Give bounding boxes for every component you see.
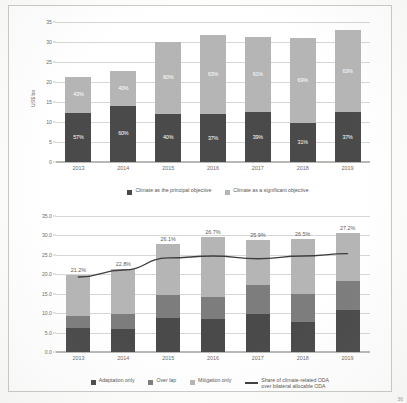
bar-value-label: 69% [290, 77, 316, 83]
legend-item[interactable]: Adaptation only [91, 378, 135, 385]
y-axis-tick-label: 20 [46, 79, 52, 85]
bar-value-label: 63% [335, 68, 361, 74]
legend-line-swatch-icon [245, 382, 258, 384]
line-value-label: 26.5% [295, 231, 310, 237]
y-axis-tickmark [53, 62, 56, 63]
bar-segment[interactable]: 60% [155, 42, 181, 114]
y-axis-tick-label: 0.0 [45, 349, 52, 355]
bar-group[interactable]: 60%40%2014 [110, 22, 136, 162]
bar-segment[interactable]: 37% [335, 112, 361, 162]
y-axis-tick-label: 30 [46, 39, 52, 45]
y-axis-tickmark [53, 82, 56, 83]
legend-item[interactable]: Climate as a significant objective [225, 188, 308, 195]
chart-top-stacked-bar: US$ bn 0510152025303557%43%201360%40%201… [23, 12, 383, 200]
bar-group[interactable]: 39%61%2017 [245, 22, 271, 162]
bar-segment[interactable]: 63% [335, 30, 361, 112]
y-axis-tick-label: 15.0 [42, 291, 52, 297]
legend-label: Over lap [156, 378, 176, 384]
line-value-label: 22.8% [116, 261, 131, 267]
bar-group[interactable]: 40%60%2015 [155, 22, 181, 162]
trend-line-series [56, 216, 370, 352]
figure-frame: US$ bn 0510152025303557%43%201360%40%201… [8, 5, 392, 392]
y-axis-tick-label: 5 [49, 139, 52, 145]
legend-item[interactable]: Over lap [148, 378, 176, 385]
bar-segment[interactable]: 31% [290, 123, 316, 162]
bar-value-label: 57% [65, 134, 91, 140]
y-axis-tick-label: 30.0 [42, 232, 52, 238]
y-axis-tick-label: 10 [46, 119, 52, 125]
legend-label: Adaptation only [99, 378, 135, 384]
legend-item[interactable]: Climate as the principal objective [127, 188, 211, 195]
bar-value-label: 60% [155, 74, 181, 80]
bar-group[interactable]: 57%43%2013 [65, 22, 91, 162]
chart-bottom-stacked-bar-with-line: 0.05.010.015.020.025.030.035.02013201420… [23, 202, 383, 392]
x-axis-category-label: 2019 [322, 355, 374, 361]
y-axis-tickmark [53, 122, 56, 123]
bar-value-label: 40% [110, 85, 136, 91]
legend-label: Climate as the principal objective [135, 188, 211, 194]
legend-item[interactable]: Share of climate-related ODA over bilate… [245, 378, 339, 390]
y-axis-title-top: US$ bn [30, 90, 36, 107]
y-axis-tick-label: 35 [46, 19, 52, 25]
bar-value-label: 40% [155, 134, 181, 140]
y-axis-tick-label: 25.0 [42, 252, 52, 258]
line-value-label: 25.9% [250, 232, 265, 238]
y-axis-tickmark [53, 22, 56, 23]
legend-color-swatch-icon [127, 190, 132, 195]
legend-color-swatch-icon [225, 190, 230, 195]
legend-label: Mitigation only [198, 378, 231, 384]
y-axis-tick-label: 10.0 [42, 310, 52, 316]
legend-color-swatch-icon [91, 380, 96, 385]
line-value-label: 26.7% [205, 229, 220, 235]
y-axis-tick-label: 5.0 [45, 330, 52, 336]
page-canvas: US$ bn 0510152025303557%43%201360%40%201… [0, 0, 407, 403]
y-axis-tick-label: 15 [46, 99, 52, 105]
y-axis-tickmark [53, 42, 56, 43]
legend-label: Climate as a significant objective [233, 188, 308, 194]
bar-segment[interactable]: 69% [290, 38, 316, 123]
bar-group[interactable]: 37%63%2019 [335, 22, 361, 162]
bar-segment[interactable]: 43% [65, 77, 91, 113]
bar-value-label: 37% [200, 135, 226, 141]
bar-segment[interactable]: 37% [200, 114, 226, 162]
y-axis-tick-label: 35.0 [42, 213, 52, 219]
y-axis-tickmark [53, 142, 56, 143]
x-axis-category-label: 2019 [321, 165, 375, 171]
line-value-label: 26.1% [160, 236, 175, 242]
bar-value-label: 39% [245, 134, 271, 140]
legend-label: Share of climate-related ODA over bilate… [261, 378, 339, 390]
legend-bottom: Adaptation onlyOver lapMitigation onlySh… [65, 378, 365, 390]
bar-segment[interactable]: 63% [200, 35, 226, 114]
legend-color-swatch-icon [148, 380, 153, 385]
bar-segment[interactable]: 57% [65, 113, 91, 162]
bar-value-label: 63% [200, 71, 226, 77]
y-axis-tick-label: 25 [46, 59, 52, 65]
line-value-label: 21.2% [71, 267, 86, 273]
bar-value-label: 43% [65, 91, 91, 97]
bar-segment[interactable]: 60% [110, 106, 136, 162]
bar-value-label: 61% [245, 71, 271, 77]
bar-segment[interactable]: 40% [155, 114, 181, 162]
bar-value-label: 60% [110, 130, 136, 136]
bar-value-label: 31% [290, 139, 316, 145]
bar-group[interactable]: 31%69%2018 [290, 22, 316, 162]
y-axis-tick-label: 20.0 [42, 271, 52, 277]
line-value-label: 27.2% [340, 225, 355, 231]
gridline [56, 162, 370, 163]
bar-value-label: 37% [335, 134, 361, 140]
bar-segment[interactable]: 40% [110, 71, 136, 106]
legend-color-swatch-icon [190, 380, 195, 385]
y-axis-tickmark [53, 162, 56, 163]
page-number: 36 [397, 396, 403, 402]
bar-segment[interactable]: 61% [245, 37, 271, 112]
legend-item[interactable]: Mitigation only [190, 378, 231, 385]
plot-area-bottom: 0.05.010.015.020.025.030.035.02013201420… [56, 216, 370, 352]
y-axis-tickmark [53, 102, 56, 103]
bar-segment[interactable]: 39% [245, 112, 271, 162]
plot-area-top: 0510152025303557%43%201360%40%201440%60%… [56, 22, 370, 162]
gridline [56, 352, 370, 353]
bar-group[interactable]: 37%63%2016 [200, 22, 226, 162]
legend-top: Climate as the principal objectiveClimat… [83, 188, 353, 195]
